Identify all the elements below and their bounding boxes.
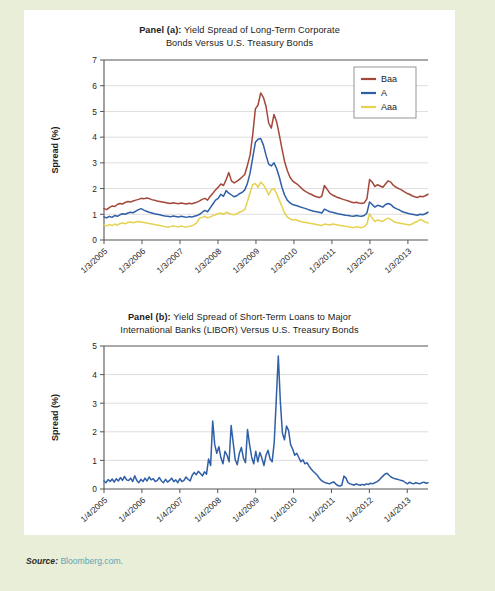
x-tick-label: 1/3/2012 — [344, 246, 375, 275]
x-tick-label: 1/4/2008 — [192, 495, 223, 524]
legend-label-baa: Baa — [381, 74, 397, 84]
x-tick-label: 1/4/2011 — [306, 495, 337, 524]
panel-a-title-bold: Panel (a): — [139, 25, 181, 35]
figure-panel: Panel (a): Yield Spread of Long-Term Cor… — [24, 10, 455, 535]
series-line-libor-spread — [104, 356, 428, 486]
panel-a-title-line2: Bonds Versus U.S. Treasury Bonds — [24, 37, 455, 50]
panel-b-title: Panel (b): Yield Spread of Short-Term Lo… — [24, 297, 455, 336]
y-tick-label: 5 — [92, 107, 97, 117]
source-line: Source: Bloomberg.com. — [26, 556, 123, 566]
x-tick-label: 1/4/2013 — [382, 495, 413, 524]
x-tick-label: 1/3/2008 — [192, 246, 223, 275]
x-tick-label: 1/3/2007 — [154, 246, 185, 275]
series-line-a — [104, 138, 428, 217]
y-axis-label: Spread (%) — [50, 394, 60, 441]
panel-a: Panel (a): Yield Spread of Long-Term Cor… — [24, 10, 455, 297]
panel-a-title-rest: Yield Spread of Long-Term Corporate — [182, 25, 340, 35]
x-tick-label: 1/4/2006 — [116, 495, 147, 524]
x-tick-label: 1/3/2009 — [230, 246, 261, 275]
x-tick-label: 1/4/2012 — [344, 495, 375, 524]
x-tick-label: 1/3/2013 — [382, 246, 413, 275]
source-label: Source: — [26, 556, 58, 566]
x-tick-label: 1/4/2009 — [230, 495, 261, 524]
y-tick-label: 0 — [92, 235, 97, 245]
x-tick-label: 1/3/2010 — [268, 246, 299, 275]
y-tick-label: 4 — [92, 370, 97, 380]
x-tick-label: 1/4/2005 — [78, 495, 109, 524]
y-tick-label: 1 — [92, 210, 97, 220]
source-value: Bloomberg.com. — [60, 556, 123, 566]
y-tick-label: 3 — [92, 399, 97, 409]
panel-b-plot: 012345Spread (%)1/4/20051/4/20061/4/2007… — [24, 336, 455, 532]
panel-b-title-rest: Yield Spread of Short-Term Loans to Majo… — [171, 312, 351, 322]
x-tick-label: 1/3/2006 — [116, 246, 147, 275]
y-tick-label: 0 — [92, 484, 97, 494]
x-tick-label: 1/4/2010 — [268, 495, 299, 524]
panel-b-svg: 012345Spread (%)1/4/20051/4/20061/4/2007… — [24, 336, 455, 532]
y-tick-label: 7 — [92, 55, 97, 65]
y-axis-label: Spread (%) — [50, 126, 60, 173]
legend-label-aaa: Aaa — [381, 102, 397, 112]
legend-label-a: A — [381, 88, 387, 98]
panel-a-title: Panel (a): Yield Spread of Long-Term Cor… — [24, 10, 455, 49]
x-tick-label: 1/3/2005 — [78, 246, 109, 275]
panel-a-svg: 01234567Spread (%)1/3/20051/3/20061/3/20… — [24, 49, 455, 294]
panel-b-title-line2: International Banks (LIBOR) Versus U.S. … — [24, 324, 455, 337]
x-tick-label: 1/4/2007 — [154, 495, 185, 524]
x-tick-label: 1/3/2011 — [307, 246, 338, 275]
y-tick-label: 2 — [92, 184, 97, 194]
y-tick-label: 6 — [92, 81, 97, 91]
y-tick-label: 4 — [92, 132, 97, 142]
y-tick-label: 5 — [92, 341, 97, 351]
panel-a-plot: 01234567Spread (%)1/3/20051/3/20061/3/20… — [24, 49, 455, 294]
panel-b: Panel (b): Yield Spread of Short-Term Lo… — [24, 297, 455, 535]
panel-b-title-bold: Panel (b): — [128, 312, 171, 322]
series-line-aaa — [104, 182, 428, 228]
figure-frame: Panel (a): Yield Spread of Long-Term Cor… — [0, 0, 495, 591]
y-tick-label: 3 — [92, 158, 97, 168]
y-tick-label: 2 — [92, 427, 97, 437]
y-tick-label: 1 — [92, 456, 97, 466]
